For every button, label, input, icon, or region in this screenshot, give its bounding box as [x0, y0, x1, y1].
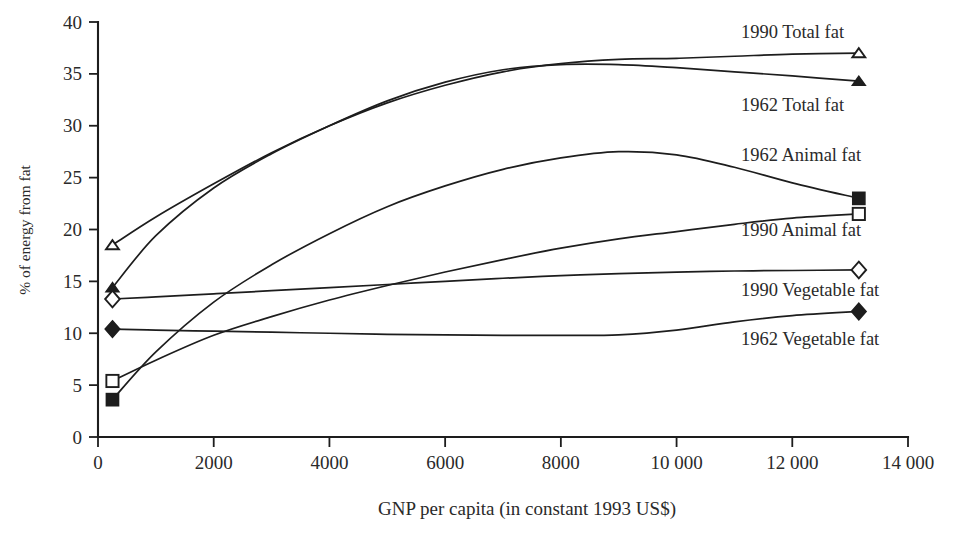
marker-filled-diamond-end-icon [852, 303, 867, 320]
marker-open-square-end-icon [853, 208, 865, 220]
x-tick-label: 0 [93, 452, 103, 473]
x-tick-label: 4000 [310, 452, 348, 473]
fat-vs-gnp-line-chart: 05101520253035400200040006000800010 0001… [0, 0, 954, 544]
y-tick-label: 35 [63, 63, 82, 84]
series-label-0: 1990 Total fat [741, 22, 845, 42]
series-label-5: 1962 Vegetable fat [741, 329, 880, 349]
x-tick-label: 8000 [542, 452, 580, 473]
series-label-3: 1990 Animal fat [741, 220, 862, 240]
y-axis-title: % of energy from fat [16, 164, 33, 294]
x-tick-label: 2000 [195, 452, 233, 473]
marker-open-diamond-end-icon [852, 262, 867, 279]
marker-open-diamond-start-icon [105, 291, 120, 308]
y-tick-label: 0 [73, 427, 83, 448]
marker-open-square-start-icon [106, 375, 118, 387]
series-label-4: 1990 Vegetable fat [741, 280, 880, 300]
marker-filled-square-end-icon [853, 192, 865, 204]
x-axis-title: GNP per capita (in constant 1993 US$) [378, 498, 676, 520]
x-tick-label: 10 000 [650, 452, 702, 473]
series-labels: 1990 Total fat1962 Total fat1962 Animal … [741, 22, 880, 349]
y-tick-label: 20 [63, 219, 82, 240]
x-tick-label: 14 000 [882, 452, 934, 473]
series-label-2: 1962 Animal fat [741, 145, 862, 165]
y-tick-label: 30 [63, 115, 82, 136]
y-tick-label: 5 [73, 375, 83, 396]
y-tick-label: 15 [63, 271, 82, 292]
tick-labels: 05101520253035400200040006000800010 0001… [63, 12, 934, 474]
series-label-1: 1962 Total fat [741, 95, 845, 115]
marker-filled-diamond-start-icon [105, 321, 120, 338]
series-line-2 [112, 152, 858, 400]
x-tick-label: 12 000 [766, 452, 818, 473]
x-tick-label: 6000 [426, 452, 464, 473]
y-tick-label: 10 [63, 323, 82, 344]
marker-filled-square-start-icon [106, 394, 118, 406]
y-tick-label: 40 [63, 12, 82, 33]
chart-container: 05101520253035400200040006000800010 0001… [0, 0, 954, 544]
y-tick-label: 25 [63, 167, 82, 188]
